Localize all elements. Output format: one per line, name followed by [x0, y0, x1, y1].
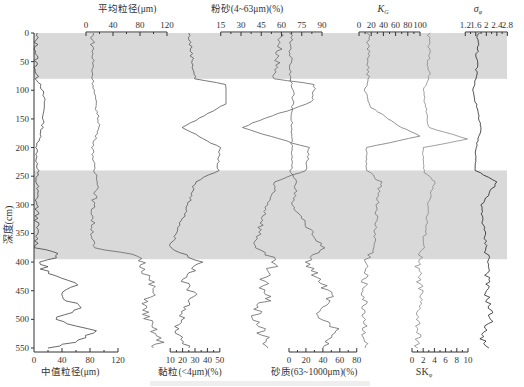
- sk-label: SKφ: [416, 366, 433, 378]
- x-tick-label: 2.8: [502, 20, 514, 30]
- x-tick-label: 6: [443, 355, 448, 365]
- x-tick-label: 40: [58, 355, 68, 365]
- x-tick-label: 60: [335, 355, 345, 365]
- x-tick-label: 100: [413, 20, 427, 30]
- x-tick-label: 30: [191, 355, 201, 365]
- x-tick-label: 4: [432, 355, 437, 365]
- y-tick-label: 400: [16, 257, 30, 267]
- figure-caption: [150, 381, 370, 386]
- x-tick-label: 80: [136, 20, 146, 30]
- y-tick-label: 300: [16, 200, 30, 210]
- y-tick-label: 450: [16, 286, 30, 296]
- x-tick-label: 0: [357, 20, 362, 30]
- x-tick-label: 10: [464, 355, 474, 365]
- shaded-bands: [34, 33, 507, 259]
- x-tick-label: 90: [318, 20, 328, 30]
- x-tick-label: 40: [109, 20, 119, 30]
- x-tick-label: 80: [403, 20, 413, 30]
- x-tick-label: 40: [203, 355, 213, 365]
- x-tick-label: 40: [318, 355, 328, 365]
- x-tick-label: 1.6: [470, 20, 482, 30]
- x-tick-label: 60: [391, 20, 401, 30]
- x-tick-label: 120: [111, 355, 125, 365]
- y-tick-label: 250: [16, 171, 30, 181]
- x-tick-label: 75: [297, 20, 307, 30]
- y-tick-label: 350: [16, 228, 30, 238]
- x-tick-label: 40: [379, 20, 389, 30]
- x-tick-label: 10: [166, 355, 176, 365]
- y-tick-label: 200: [16, 143, 30, 153]
- x-tick-label: 2: [421, 355, 426, 365]
- y-tick-label: 50: [20, 57, 30, 67]
- x-tick-label: 120: [160, 20, 174, 30]
- shaded-band: [34, 33, 507, 79]
- x-tick-label: 0: [32, 355, 37, 365]
- x-tick-label: 15: [216, 20, 226, 30]
- y-tick-label: 0: [25, 28, 30, 38]
- x-tick-label: 50: [215, 355, 225, 365]
- x-tick-label: 20: [178, 355, 188, 365]
- shaded-band: [34, 170, 507, 259]
- x-tick-label: 80: [352, 355, 362, 365]
- x-tick-label: 0: [84, 20, 89, 30]
- median-grain-size-label: 中值粒径(μm): [41, 366, 100, 378]
- y-tick-label: 500: [16, 314, 30, 324]
- x-tick-label: 8: [455, 355, 460, 365]
- x-tick-label: 30: [237, 20, 247, 30]
- x-tick-label: 45: [257, 20, 267, 30]
- y-tick-label: 550: [16, 343, 30, 353]
- sigma-label: σφ: [474, 3, 483, 15]
- clay-label: 黏粒(<4μm)(%): [158, 366, 221, 378]
- x-tick-label: 2: [484, 20, 489, 30]
- x-tick-label: 60: [277, 20, 287, 30]
- grain-size-depth-profile-chart: 0501001502002503003504004505005500408012…: [0, 0, 524, 387]
- x-tick-label: 0: [410, 355, 415, 365]
- mean-grain-size-label: 平均粒径(μm): [98, 3, 157, 15]
- x-tick-label: 0: [287, 355, 292, 365]
- x-tick-label: 20: [301, 355, 311, 365]
- y-tick-label: 150: [16, 114, 30, 124]
- y-tick-label: 100: [16, 85, 30, 95]
- kg-label: KG: [376, 3, 389, 15]
- y-axis-label: 深度(cm): [2, 206, 15, 245]
- x-tick-label: 20: [367, 20, 377, 30]
- x-tick-label: 80: [86, 355, 96, 365]
- sand-label: 砂质(63~1000μm)(%): [271, 366, 358, 378]
- silt-label: 粉砂(4~63μm)(%): [211, 3, 283, 15]
